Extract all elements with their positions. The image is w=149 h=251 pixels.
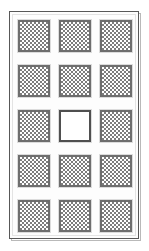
panel-title: Tile Panel [0, 0, 1, 1]
tile-r5-c3[interactable] [100, 200, 132, 232]
tile-r1-c2[interactable] [59, 20, 91, 52]
tile-r2-c1[interactable] [18, 65, 50, 97]
tile-r1-c1[interactable] [18, 20, 50, 52]
tile-r2-c2[interactable] [59, 65, 91, 97]
tile-r3-c3[interactable] [100, 110, 132, 142]
tile-r3-c2[interactable] [59, 110, 91, 142]
tile-r3-c1[interactable] [18, 110, 50, 142]
tile-r2-c3[interactable] [100, 65, 132, 97]
tile-grid [18, 20, 132, 232]
tile-r4-c1[interactable] [18, 155, 50, 187]
panel-frame [9, 11, 139, 239]
tile-r1-c3[interactable] [100, 20, 132, 52]
tile-r5-c1[interactable] [18, 200, 50, 232]
screenshot-root: Tile Panel [0, 0, 149, 251]
tile-r5-c2[interactable] [59, 200, 91, 232]
tile-r4-c3[interactable] [100, 155, 132, 187]
tile-r4-c2[interactable] [59, 155, 91, 187]
